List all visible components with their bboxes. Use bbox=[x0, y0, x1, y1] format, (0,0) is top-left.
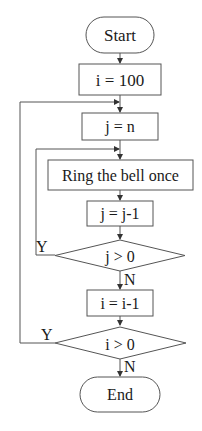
init-i-process: i = 100 bbox=[79, 64, 161, 95]
end-terminal: End bbox=[80, 377, 160, 412]
dec-j-process: j = j-1 bbox=[87, 201, 153, 226]
ring-bell-process: Ring the bell once bbox=[48, 160, 193, 190]
end-label: End bbox=[107, 386, 133, 403]
cond-i-decision: i > 0 Y N bbox=[41, 326, 186, 375]
init-j-process: j = n bbox=[82, 113, 158, 140]
cond-j-label: j > 0 bbox=[104, 248, 134, 266]
dec-i-label: i = i-1 bbox=[100, 295, 139, 312]
cond-j-no-label: N bbox=[124, 271, 136, 288]
start-terminal: Start bbox=[86, 17, 154, 53]
init-i-label: i = 100 bbox=[96, 71, 144, 90]
cond-j-yes-label: Y bbox=[36, 238, 48, 255]
ring-bell-label: Ring the bell once bbox=[62, 167, 179, 185]
init-j-label: j = n bbox=[104, 118, 134, 136]
cond-j-decision: j > 0 Y N bbox=[36, 238, 185, 288]
start-label: Start bbox=[104, 26, 136, 45]
dec-j-label: j = j-1 bbox=[99, 205, 139, 223]
cond-i-label: i > 0 bbox=[105, 336, 134, 353]
flowchart: Start i = 100 j = n Ring the bell once j… bbox=[0, 0, 202, 431]
dec-i-process: i = i-1 bbox=[87, 290, 153, 316]
cond-i-yes-label: Y bbox=[41, 326, 53, 343]
cond-i-no-label: N bbox=[124, 358, 136, 375]
